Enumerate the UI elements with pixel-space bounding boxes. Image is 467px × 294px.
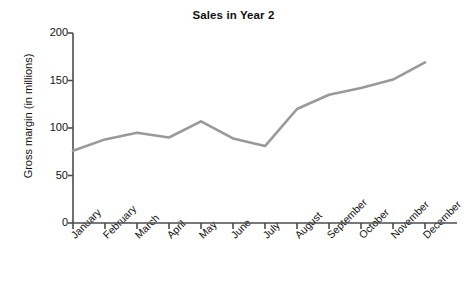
data-series-line bbox=[73, 62, 425, 150]
plot-area bbox=[0, 0, 467, 294]
axes bbox=[73, 33, 457, 223]
x-axis-ticks bbox=[73, 223, 425, 229]
line-chart: Sales in Year 2 Gross margin (in million… bbox=[0, 0, 467, 294]
